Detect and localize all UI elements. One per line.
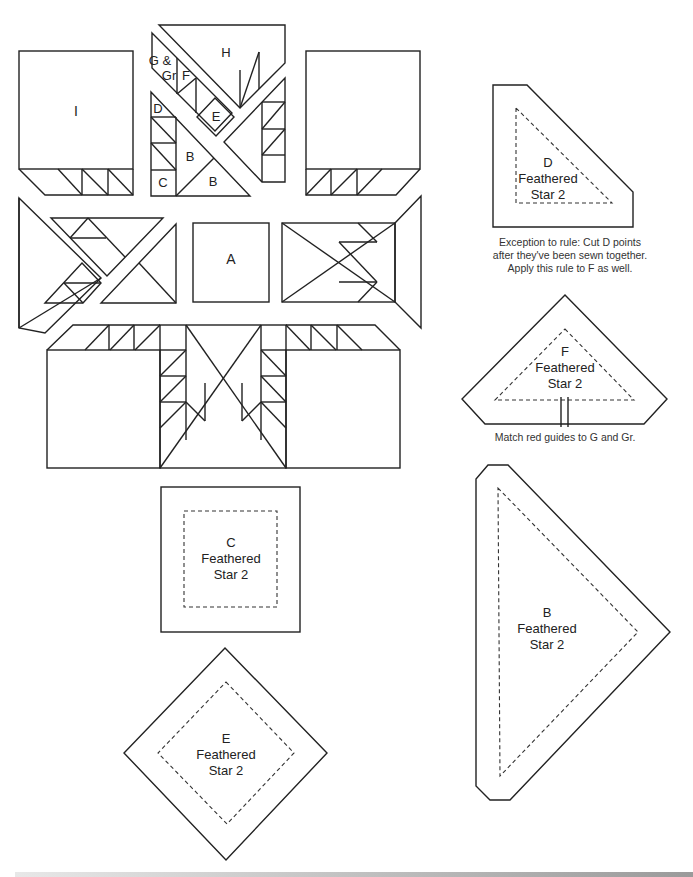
note-d-line-1: Exception to rule: Cut D points	[470, 236, 670, 249]
template-b-sub: Star 2	[530, 637, 565, 652]
template-f-name: Feathered	[535, 360, 594, 375]
template-d-note: Exception to rule: Cut D points after th…	[470, 236, 670, 275]
label-g: G &	[149, 53, 172, 68]
label-h: H	[221, 45, 230, 60]
label-gr: Gr	[162, 68, 177, 83]
top-center-cluster: H G & Gr F E D B B C	[149, 25, 285, 196]
template-c: C Feathered Star 2	[161, 487, 300, 632]
block-i-reverse	[306, 51, 420, 195]
block-i: I	[19, 51, 133, 195]
template-d: D Feathered Star 2	[493, 85, 633, 227]
middle-right-cluster	[282, 196, 421, 328]
block-a: A	[193, 223, 269, 302]
note-f-line-1: Match red guides to G and Gr.	[470, 431, 660, 444]
label-a: A	[226, 251, 236, 267]
label-i: I	[74, 103, 78, 119]
label-d: D	[153, 101, 162, 116]
template-f: F Feathered Star 2	[462, 295, 667, 427]
middle-left-cluster	[19, 198, 176, 333]
template-d-name: Feathered	[518, 171, 577, 186]
template-c-sub: Star 2	[214, 567, 249, 582]
label-b1: B	[186, 149, 195, 164]
template-b-name: Feathered	[517, 621, 576, 636]
template-f-letter: F	[561, 344, 569, 359]
page-bottom-edge	[15, 872, 693, 877]
template-d-sub: Star 2	[531, 187, 566, 202]
label-c: C	[158, 175, 167, 190]
template-d-letter: D	[543, 155, 552, 170]
label-b2: B	[209, 174, 218, 189]
label-f: F	[182, 68, 190, 83]
template-e-name: Feathered	[196, 747, 255, 762]
template-e-sub: Star 2	[209, 763, 244, 778]
template-f-note: Match red guides to G and Gr.	[470, 431, 660, 444]
bottom-wide-block	[47, 325, 400, 468]
template-b-letter: B	[543, 605, 552, 620]
template-e-letter: E	[222, 731, 231, 746]
template-f-sub: Star 2	[548, 376, 583, 391]
note-d-line-2: after they've been sewn together.	[470, 249, 670, 262]
template-c-name: Feathered	[201, 551, 260, 566]
note-d-line-3: Apply this rule to F as well.	[470, 262, 670, 275]
label-e: E	[212, 109, 221, 124]
template-c-letter: C	[226, 535, 235, 550]
template-e: E Feathered Star 2	[124, 648, 327, 860]
template-b: B Feathered Star 2	[476, 465, 670, 800]
